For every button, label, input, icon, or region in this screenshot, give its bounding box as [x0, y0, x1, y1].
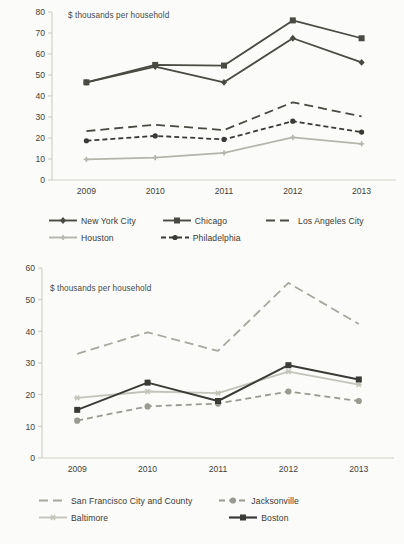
- legend-label: Jacksonville: [248, 496, 299, 506]
- svg-text:2011: 2011: [209, 464, 228, 474]
- chart-bottom-container: 010203040506020092010201120122013 $ thou…: [0, 258, 404, 544]
- legend-swatch-icon: [218, 495, 248, 506]
- legend-swatch-icon: [48, 215, 78, 226]
- svg-text:2010: 2010: [146, 186, 165, 196]
- svg-text:80: 80: [35, 7, 45, 17]
- chart-top-plot-area: 0102030405060708020092010201120122013 $ …: [0, 0, 404, 208]
- svg-text:50: 50: [25, 295, 35, 305]
- svg-text:60: 60: [25, 263, 35, 273]
- chart-top-container: 0102030405060708020092010201120122013 $ …: [0, 0, 404, 258]
- legend-swatch-icon: [48, 232, 78, 243]
- svg-text:2013: 2013: [352, 186, 371, 196]
- svg-text:2009: 2009: [68, 464, 87, 474]
- svg-text:2012: 2012: [283, 186, 302, 196]
- legend-label: New York City: [78, 216, 136, 226]
- chart-bottom-plot-area: 010203040506020092010201120122013 $ thou…: [0, 258, 404, 488]
- svg-text:50: 50: [35, 70, 45, 80]
- chart-bottom-legend: San Francisco City and CountyJacksonvill…: [0, 492, 404, 526]
- legend-label: Chicago: [192, 216, 227, 226]
- legend-item-boston[interactable]: Boston: [228, 512, 288, 523]
- legend-label: Los Angeles City: [295, 216, 364, 226]
- legend-item-san-francisco-city-and-county[interactable]: San Francisco City and County: [38, 495, 192, 506]
- legend-label: San Francisco City and County: [68, 496, 192, 506]
- legend-item-new-york-city[interactable]: New York City: [48, 215, 136, 226]
- svg-text:60: 60: [35, 49, 45, 59]
- legend-swatch-icon: [160, 232, 190, 243]
- svg-text:2009: 2009: [77, 186, 96, 196]
- svg-text:30: 30: [25, 358, 35, 368]
- legend-swatch-icon: [38, 495, 68, 506]
- legend-item-chicago[interactable]: Chicago: [162, 215, 227, 226]
- series-new-york-city: [83, 35, 364, 86]
- svg-text:10: 10: [25, 422, 35, 432]
- legend-row: New York CityChicagoLos Angeles City: [0, 212, 404, 229]
- svg-text:30: 30: [35, 112, 45, 122]
- legend-item-baltimore[interactable]: Baltimore: [38, 512, 108, 523]
- legend-item-philadelphia[interactable]: Philadelphia: [160, 232, 241, 243]
- chart-top-svg: 0102030405060708020092010201120122013: [0, 0, 404, 208]
- series-san-francisco-city-and-county: [77, 283, 359, 354]
- chart-top-legend: New York CityChicagoLos Angeles CityHous…: [0, 212, 404, 246]
- svg-text:20: 20: [35, 133, 45, 143]
- legend-item-jacksonville[interactable]: Jacksonville: [218, 495, 299, 506]
- legend-label: Houston: [78, 233, 114, 243]
- svg-text:0: 0: [40, 175, 45, 185]
- legend-row: BaltimoreBoston: [0, 509, 404, 526]
- series-chicago: [83, 17, 364, 85]
- legend-swatch-icon: [228, 512, 258, 523]
- svg-text:2010: 2010: [138, 464, 157, 474]
- legend-label: Baltimore: [68, 513, 108, 523]
- legend-label: Philadelphia: [190, 233, 241, 243]
- legend-swatch-icon: [265, 215, 295, 226]
- legend-swatch-icon: [38, 512, 68, 523]
- legend-row: HoustonPhiladelphia: [0, 229, 404, 246]
- svg-text:2011: 2011: [215, 186, 234, 196]
- legend-item-los-angeles-city[interactable]: Los Angeles City: [265, 215, 364, 226]
- svg-text:0: 0: [30, 453, 35, 463]
- legend-item-houston[interactable]: Houston: [48, 232, 114, 243]
- legend-label: Boston: [258, 513, 288, 523]
- svg-text:20: 20: [25, 390, 35, 400]
- chart-bottom-annotation: $ thousands per household: [50, 284, 151, 293]
- svg-text:40: 40: [25, 327, 35, 337]
- svg-text:40: 40: [35, 91, 45, 101]
- svg-text:10: 10: [35, 154, 45, 164]
- svg-text:2012: 2012: [279, 464, 298, 474]
- series-los-angeles-city: [86, 102, 361, 131]
- legend-swatch-icon: [162, 215, 192, 226]
- chart-top-annotation: $ thousands per household: [68, 11, 169, 20]
- svg-text:2013: 2013: [349, 464, 368, 474]
- legend-row: San Francisco City and CountyJacksonvill…: [0, 492, 404, 509]
- svg-text:70: 70: [35, 28, 45, 38]
